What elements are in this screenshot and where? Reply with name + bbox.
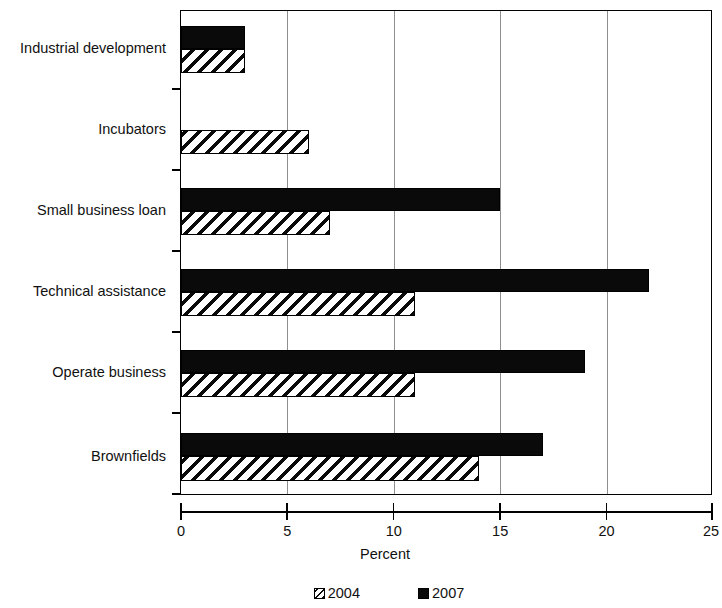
legend-item-2007: 2007 <box>418 585 464 601</box>
x-axis-tick-label-15: 15 <box>492 523 508 539</box>
bar-2007-industrial-development <box>181 26 245 49</box>
bar-2007-operate-business <box>181 350 585 373</box>
category-label-technical-assistance: Technical assistance <box>33 283 166 299</box>
chart-legend: 2004 2007 <box>0 585 722 601</box>
x-axis-tick-label-5: 5 <box>283 523 291 539</box>
bar-2004-technical-assistance <box>181 292 415 316</box>
x-axis-tick <box>393 503 395 520</box>
x-axis-line <box>180 511 712 513</box>
x-axis-tick <box>499 503 501 520</box>
bar-2007-technical-assistance <box>181 269 649 292</box>
x-axis-title-text: Percent <box>360 546 410 562</box>
bar-chart: Industrial development Incubators Small … <box>0 0 722 608</box>
category-label-operate-business: Operate business <box>52 364 166 380</box>
bar-2004-brownfields <box>181 456 479 481</box>
x-axis-tick <box>606 503 608 520</box>
bar-group-operate-business <box>181 335 711 416</box>
x-axis-tick <box>711 503 713 520</box>
bar-2004-operate-business <box>181 373 415 397</box>
category-label-incubators: Incubators <box>98 121 166 137</box>
legend-label-2007: 2007 <box>432 585 464 601</box>
bar-group-small-business-loan <box>181 173 711 254</box>
bar-2004-incubators <box>181 130 309 154</box>
category-label-industrial-development: Industrial development <box>20 40 166 56</box>
category-label-brownfields: Brownfields <box>91 448 166 464</box>
bar-2004-industrial-development <box>181 49 245 73</box>
category-axis-labels: Industrial development Incubators Small … <box>0 0 174 608</box>
x-axis-tick-label-25: 25 <box>703 523 719 539</box>
plot-area <box>180 10 712 495</box>
x-axis-tick-label-0: 0 <box>177 523 185 539</box>
x-axis-tick-label-10: 10 <box>386 523 402 539</box>
bar-group-industrial-development <box>181 11 711 92</box>
bar-2004-small-business-loan <box>181 211 330 235</box>
category-label-small-business-loan: Small business loan <box>37 202 166 218</box>
bar-group-technical-assistance <box>181 254 711 335</box>
hatched-swatch-icon <box>314 588 325 599</box>
bar-2007-small-business-loan <box>181 188 500 211</box>
legend-item-2004: 2004 <box>314 585 360 601</box>
bar-group-incubators <box>181 92 711 173</box>
bar-2007-brownfields <box>181 433 543 456</box>
x-axis-tick <box>180 503 182 520</box>
x-axis-tick-label-20: 20 <box>599 523 615 539</box>
solid-black-swatch-icon <box>418 588 429 599</box>
bar-group-brownfields <box>181 416 711 497</box>
x-axis-title: Percent <box>0 546 722 562</box>
legend-label-2004: 2004 <box>328 585 360 601</box>
x-axis-tick <box>286 503 288 520</box>
